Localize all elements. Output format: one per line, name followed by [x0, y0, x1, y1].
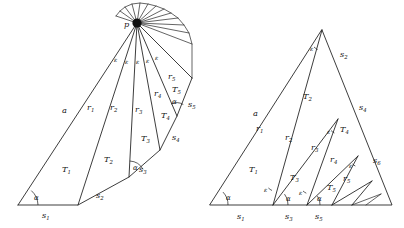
left-label-p: p [124, 19, 130, 29]
right-label-s6: s6 [373, 155, 381, 166]
right-label-s3: s3 [285, 211, 293, 222]
left-boundary-chain [18, 78, 192, 205]
left-label-T1: T1 [62, 164, 71, 175]
left-label-r4: r4 [154, 88, 162, 99]
right-label-T5: T5 [327, 182, 336, 193]
left-label-alpha-2: α [133, 164, 138, 172]
right-label-epsilon-1: ε [310, 45, 313, 52]
right-ray-r9 [366, 194, 381, 205]
right-label-epsilon-2: ε [264, 186, 267, 193]
left-label-r1: r1 [87, 102, 94, 113]
left-label-T3: T3 [141, 133, 150, 144]
right-angle-arc-epsilon-4 [303, 191, 306, 193]
right-label-s2: s2 [340, 49, 348, 60]
right-label-r5: r5 [343, 173, 351, 184]
left-label-alpha-1: α [34, 194, 39, 202]
right-label-alpha-3: α [317, 195, 322, 203]
left-label-epsilon-3: ε [136, 58, 139, 65]
left-label-alpha-3: α [172, 98, 177, 106]
left-label-s4: s4 [172, 132, 180, 143]
right-label-epsilon-5: ε [349, 162, 352, 169]
right-label-r3: r3 [311, 142, 319, 153]
left-label-T2: T2 [104, 154, 113, 165]
left-label-a: a [62, 105, 67, 115]
right-label-s1: s1 [237, 211, 245, 222]
right-label-r4: r4 [330, 154, 338, 165]
left-ray-r4 [137, 23, 177, 116]
right-label-epsilon-3: ε [327, 128, 330, 135]
left-label-epsilon-4: ε [146, 57, 149, 64]
right-label-T1: T1 [249, 164, 258, 175]
left-label-s1: s1 [42, 210, 50, 221]
right-label-T4: T4 [340, 124, 349, 135]
right-label-alpha-2: α [286, 195, 291, 203]
left-label-s3: s3 [139, 164, 147, 175]
right-label-s4: s4 [359, 102, 367, 113]
figure-root: s1 s2 s3 s4 s5 a r1 r2 r3 r4 r5 T1 T2 T3… [0, 0, 404, 228]
right-label-epsilon-4: ε [299, 189, 302, 196]
right-label-T3: T3 [290, 172, 299, 183]
left-label-r3: r3 [135, 104, 143, 115]
right-angle-arc-epsilon-2 [268, 188, 272, 191]
left-label-epsilon-2: ε [125, 58, 128, 65]
left-side-a [18, 23, 137, 205]
right-label-r1: r1 [256, 123, 263, 134]
right-outer-triangle [210, 30, 392, 205]
right-label-a: a [253, 108, 258, 118]
geometry-figure-svg: s1 s2 s3 s4 s5 a r1 r2 r3 r4 r5 T1 T2 T3… [0, 0, 404, 228]
left-label-r2: r2 [110, 102, 118, 113]
right-label-r2: r2 [285, 132, 293, 143]
right-panel-group: s1 s3 s5 s2 s4 s6 a r1 r2 r3 r4 r5 T1 T2… [210, 30, 392, 222]
left-label-epsilon-1: ε [114, 56, 117, 63]
left-panel-group: s1 s2 s3 s4 s5 a r1 r2 r3 r4 r5 T1 T2 T3… [18, 3, 196, 221]
right-label-T2: T2 [303, 91, 312, 102]
left-label-T4: T4 [161, 110, 170, 121]
left-ray-r2 [129, 23, 137, 177]
left-label-r5: r5 [168, 71, 176, 82]
left-label-s5: s5 [188, 99, 196, 110]
right-label-alpha-1: α [226, 194, 231, 202]
right-label-s5: s5 [315, 211, 323, 222]
left-label-epsilon-5: ε [155, 54, 158, 61]
left-label-T5: T5 [172, 84, 181, 95]
left-apex-point-p [132, 18, 141, 27]
